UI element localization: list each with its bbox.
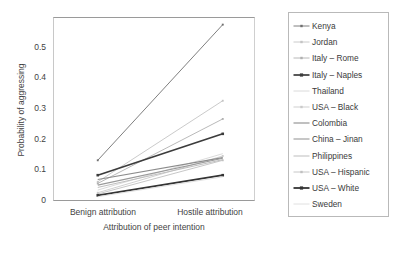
legend-line-swatch-icon [293, 86, 310, 96]
y-tick-label-0.5: 0.5 [20, 42, 46, 52]
legend-line-swatch-icon [293, 21, 310, 31]
series-marker [97, 183, 99, 185]
legend-line-swatch-icon [293, 199, 310, 209]
legend-line-swatch-icon [293, 151, 310, 161]
legend-line-swatch-icon [293, 167, 310, 177]
legend-item[interactable]: Colombia [289, 115, 388, 131]
legend-item-label: Colombia [312, 118, 347, 128]
legend-item[interactable]: China – Jinan [289, 131, 388, 147]
series-line [98, 175, 223, 195]
legend-item-label: Thailand [312, 86, 344, 96]
y-tick-label-0: 0 [20, 195, 46, 205]
legend-item-label: USA – White [312, 183, 359, 193]
legend-line-swatch-icon [293, 183, 310, 193]
series-marker [222, 118, 224, 120]
x-axis-title: Attribution of peer intention [53, 222, 255, 232]
series-lines [54, 18, 254, 200]
legend-item[interactable]: Italy – Rome [289, 50, 388, 66]
legend-line-swatch-icon [293, 70, 310, 80]
x-tick-label-hostile: Hostile attribution [155, 207, 265, 217]
legend-item-label: Italy – Rome [312, 53, 359, 63]
legend-item[interactable]: Jordan [289, 34, 388, 50]
legend-line-swatch-icon [293, 102, 310, 112]
legend-item-label: Philippines [312, 151, 352, 161]
legend-item-label: Italy – Naples [312, 70, 362, 80]
legend: KenyaJordanItaly – RomeItaly – NaplesTha… [288, 12, 389, 217]
legend-item[interactable]: Philippines [289, 148, 388, 164]
series-line [98, 160, 223, 194]
series-marker [222, 24, 224, 26]
x-tick-label-benign: Benign attribution [48, 207, 158, 217]
legend-item-label: USA – Black [312, 102, 358, 112]
legend-item-label: Jordan [312, 37, 337, 47]
legend-item[interactable]: Kenya [289, 18, 388, 34]
series-line [98, 158, 223, 185]
legend-item[interactable]: USA – Black [289, 99, 388, 115]
legend-line-swatch-icon [293, 37, 310, 47]
plot-area [53, 17, 255, 201]
legend-line-swatch-icon [293, 118, 310, 128]
legend-item[interactable]: Sweden [289, 196, 388, 212]
series-marker [221, 133, 224, 136]
y-tick-label-0.1: 0.1 [20, 164, 46, 174]
legend-item[interactable]: Thailand [289, 83, 388, 99]
series-marker [221, 174, 224, 177]
series-marker [222, 155, 224, 157]
series-marker [96, 174, 99, 177]
series-marker [222, 159, 224, 161]
legend-line-swatch-icon [293, 53, 310, 63]
y-tick-label-0.4: 0.4 [20, 72, 46, 82]
legend-item[interactable]: USA – White [289, 180, 388, 196]
series-marker [97, 181, 99, 183]
series-marker [97, 159, 99, 161]
legend-item-label: USA – Hispanic [312, 167, 370, 177]
legend-item-label: Sweden [312, 199, 342, 209]
slope-chart-figure: Probability of aggressing 0.5 0.4 0.3 0.… [0, 0, 394, 259]
legend-item-label: Kenya [312, 21, 336, 31]
y-tick-label-0.3: 0.3 [20, 103, 46, 113]
legend-item[interactable]: Italy – Naples [289, 67, 388, 83]
legend-line-swatch-icon [293, 134, 310, 144]
series-marker [222, 100, 224, 102]
legend-item[interactable]: USA – Hispanic [289, 164, 388, 180]
y-tick-label-0.2: 0.2 [20, 134, 46, 144]
legend-item-label: China – Jinan [312, 134, 363, 144]
